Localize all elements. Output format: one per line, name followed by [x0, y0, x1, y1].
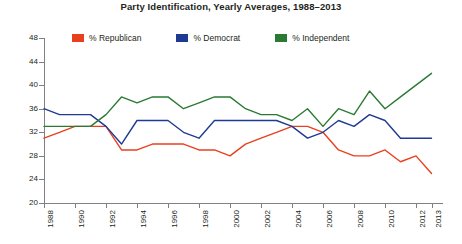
x-tick-label: 2013 [435, 210, 443, 228]
chart-title: Party Identification, Yearly Averages, 1… [0, 1, 462, 12]
x-tick-mark [44, 203, 45, 208]
y-axis-labels: 4844403632282420 [12, 0, 38, 244]
y-tick-label: 40 [18, 81, 38, 89]
x-tick-mark [432, 203, 433, 208]
x-tick-mark [323, 203, 324, 208]
y-tick-label: 20 [18, 199, 38, 207]
x-tick-mark [230, 203, 231, 208]
x-tick-label: 1994 [140, 210, 148, 228]
x-tick-mark [106, 203, 107, 208]
x-tick-label: 2010 [388, 210, 396, 228]
x-tick-label: 2002 [264, 210, 272, 228]
x-tick-label: 2012 [419, 210, 427, 228]
x-tick-mark [168, 203, 169, 208]
x-tick-label: 2006 [326, 210, 334, 228]
x-tick-mark [354, 203, 355, 208]
chart-root: Party Identification, Yearly Averages, 1… [0, 0, 462, 244]
y-tick-label: 32 [18, 128, 38, 136]
x-tick-label: 1996 [171, 210, 179, 228]
x-tick-label: 1990 [78, 210, 86, 228]
y-tick-label: 28 [18, 152, 38, 160]
series-line-republican [44, 126, 432, 173]
x-tick-label: 1998 [202, 210, 210, 228]
x-tick-mark [385, 203, 386, 208]
x-tick-mark [292, 203, 293, 208]
y-tick-label: 24 [18, 175, 38, 183]
x-tick-label: 1992 [109, 210, 117, 228]
series-line-independent [44, 73, 432, 126]
x-tick-mark [261, 203, 262, 208]
x-tick-mark [199, 203, 200, 208]
series-lines [44, 38, 432, 203]
x-tick-label: 1988 [47, 210, 55, 228]
y-tick-label: 36 [18, 105, 38, 113]
x-tick-mark [75, 203, 76, 208]
y-tick-label: 48 [18, 34, 38, 42]
plot-area [44, 38, 432, 203]
x-tick-label: 2004 [295, 210, 303, 228]
y-tick-label: 44 [18, 58, 38, 66]
x-tick-label: 2008 [357, 210, 365, 228]
x-tick-mark [416, 203, 417, 208]
x-tick-mark [137, 203, 138, 208]
x-tick-label: 2000 [233, 210, 241, 228]
